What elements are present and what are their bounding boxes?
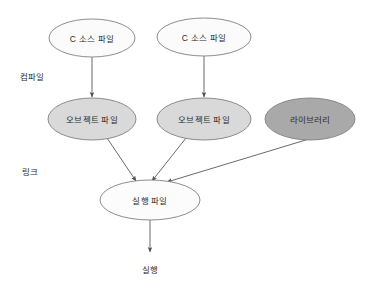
edge-object1-executable [107,138,136,181]
stage-label-compile: 컴파일 [20,70,45,82]
node-object2[interactable] [157,98,251,140]
node-executable[interactable] [100,180,200,220]
node-source2[interactable] [157,18,251,56]
nodes-group [48,18,355,220]
node-library[interactable] [265,98,355,140]
terminal-label-run: 실행 [120,263,180,275]
diagram-svg [0,0,372,290]
edge-object2-executable [152,138,186,181]
diagram-canvas: C 소스 파일C 소스 파일오브젝트 파일오브젝트 파일라이브러리실행 파일 컴… [0,0,372,290]
stage-label-link: 링크 [22,165,38,177]
edge-library-executable [167,139,309,182]
edges-group [92,56,309,252]
node-source1[interactable] [49,19,135,57]
node-object1[interactable] [48,98,136,140]
